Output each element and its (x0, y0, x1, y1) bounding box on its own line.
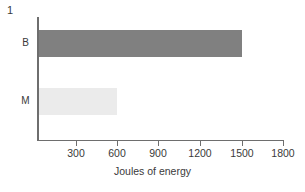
x-tick-label: 600 (97, 147, 137, 160)
x-tick-label: 900 (138, 147, 178, 160)
x-tick-mark (158, 141, 159, 146)
x-tick-mark (200, 141, 201, 146)
x-tick-label: 1800 (263, 147, 303, 160)
bar-chart-figure: 1 B M 300600900120015001800 Joules of en… (0, 0, 305, 192)
x-tick-label: 300 (56, 147, 96, 160)
y-tick-label-m: M (18, 95, 33, 107)
figure-number-label: 1 (7, 4, 13, 17)
bar-category-b (39, 30, 242, 57)
bar-category-m (39, 88, 117, 115)
x-tick-mark (242, 141, 243, 146)
x-tick-label: 1500 (222, 147, 262, 160)
x-tick-label: 1200 (180, 147, 220, 160)
x-axis-spine (37, 140, 284, 141)
x-tick-mark (117, 141, 118, 146)
x-axis-title: Joules of energy (0, 165, 305, 178)
x-tick-mark (283, 141, 284, 146)
x-tick-mark (76, 141, 77, 146)
y-tick-label-b: B (18, 37, 33, 49)
